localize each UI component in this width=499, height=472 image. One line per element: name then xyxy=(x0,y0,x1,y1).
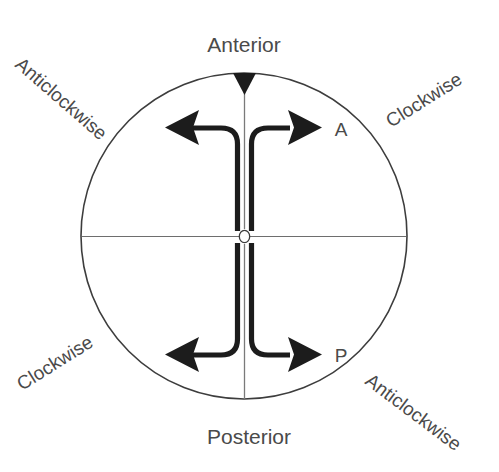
upper-right-arrow-head xyxy=(288,110,322,145)
posterior-point-marker-label: P xyxy=(335,345,348,366)
lower-right-flow-path xyxy=(252,243,291,355)
figure-container: Anterior Posterior A P Anticlockwise Clo… xyxy=(0,0,499,472)
anterior-label: Anterior xyxy=(207,33,281,56)
anteroposterior-rotation-diagram: Anterior Posterior A P Anticlockwise Clo… xyxy=(0,0,499,472)
posterior-label: Posterior xyxy=(207,425,291,448)
top-right-rotation-label: Clockwise xyxy=(382,68,466,131)
lower-right-arrow-head xyxy=(288,337,322,372)
top-left-rotation-label: Anticlockwise xyxy=(11,53,111,144)
upper-right-flow-path xyxy=(252,128,291,231)
bottom-right-rotation-label: Anticlockwise xyxy=(362,369,466,454)
origin-ring xyxy=(239,230,249,242)
anterior-triangle-marker xyxy=(233,73,256,95)
anterior-point-marker-label: A xyxy=(335,119,348,140)
bottom-left-rotation-label: Clockwise xyxy=(13,331,97,394)
